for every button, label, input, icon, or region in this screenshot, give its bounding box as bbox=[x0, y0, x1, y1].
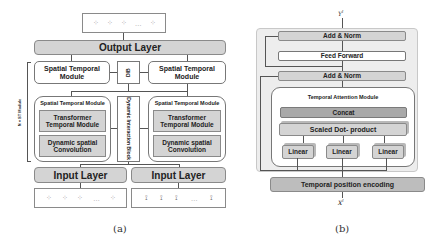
output-frame-icon: ⁘ bbox=[121, 19, 126, 27]
graph-node-icon: ⟟ bbox=[160, 194, 162, 202]
feed-forward: Feed Forward bbox=[278, 51, 406, 61]
connector bbox=[110, 72, 117, 73]
transformer-temporal-module: Transformer Temporal Module bbox=[39, 110, 106, 132]
connector bbox=[140, 72, 148, 73]
st-module-right: Spatial Temporal Module bbox=[148, 61, 226, 84]
graph-node-icon: ⟟ bbox=[175, 194, 177, 202]
input-frame-icon: ⁘ bbox=[46, 194, 51, 202]
residual-connector bbox=[260, 76, 261, 170]
temporal-position-encoding: Temporal position encoding bbox=[270, 177, 425, 192]
residual-connector bbox=[265, 36, 266, 66]
dib-small-label: DIB bbox=[126, 68, 132, 77]
connector bbox=[342, 61, 343, 71]
output-frame-icon: ⁘ bbox=[93, 19, 98, 27]
connector bbox=[303, 136, 304, 145]
st-module-left: Spatial Temporal Module bbox=[34, 61, 110, 84]
connector bbox=[343, 136, 344, 145]
connector bbox=[111, 128, 117, 129]
residual-connector bbox=[265, 66, 342, 67]
input-sequence-left: ⁘ ⁘ ⁘ … ⁘ bbox=[34, 188, 127, 208]
inner-st-module-left: Spatial Temporal Module Transformer Temp… bbox=[34, 96, 111, 162]
input-frame-icon: ⁘ bbox=[62, 194, 67, 202]
connector bbox=[128, 84, 129, 91]
output-symbol: Yl bbox=[338, 9, 343, 17]
ellipsis-icon: … bbox=[191, 195, 197, 202]
stack-bracket bbox=[27, 62, 31, 162]
connector bbox=[384, 136, 385, 145]
caption-b: (b) bbox=[335, 223, 349, 234]
connector bbox=[297, 158, 298, 170]
graph-node-icon: ⟟ bbox=[145, 194, 147, 202]
connector bbox=[386, 158, 387, 170]
residual-connector bbox=[260, 76, 278, 77]
output-frame-icon: ⁘ bbox=[107, 19, 112, 27]
input-symbol: Xl bbox=[338, 198, 344, 206]
connector bbox=[342, 41, 343, 51]
dynamic-spatial-convolution: Dynamic spatial Convolution bbox=[153, 135, 221, 157]
dynamic-spatial-convolution: Dynamic spatial Convolution bbox=[39, 135, 106, 157]
linear-box-2: Linear bbox=[326, 145, 358, 159]
connector bbox=[187, 84, 188, 96]
dynamic-interaction-block: Dynamic Interaction Block bbox=[117, 96, 140, 162]
connector bbox=[342, 158, 343, 177]
output-frame-icon: ⁘ bbox=[150, 19, 155, 27]
connector bbox=[140, 128, 148, 129]
input-sequence-right: ⟟ ⟟ ⟟ … ⟟ bbox=[131, 188, 226, 208]
connector bbox=[80, 164, 180, 165]
linear-box-3: Linear bbox=[372, 145, 404, 159]
input-frame-icon: ⁘ bbox=[77, 194, 82, 202]
output-layer: Output Layer bbox=[34, 40, 226, 55]
linear-box-1: Linear bbox=[282, 145, 314, 159]
inner-st-module-right: Spatial Temporal Module Transformer Temp… bbox=[148, 96, 226, 162]
add-norm-top: Add & Norm bbox=[278, 31, 406, 41]
dynamic-interaction-label: Dynamic Interaction Block bbox=[126, 98, 132, 161]
dib-small-box: DIB bbox=[117, 61, 140, 84]
concat-box: Concat bbox=[280, 107, 407, 118]
stack-label-wrap: N × ST Module bbox=[14, 104, 26, 120]
scaled-dot-product-box: Scaled Dot- product bbox=[279, 123, 407, 136]
output-sequence-box: ⁘ ⁘ ⁘ … ⁘ bbox=[82, 13, 166, 33]
ellipsis-icon: … bbox=[93, 195, 99, 202]
input-layer-right: Input Layer bbox=[131, 167, 226, 183]
transformer-temporal-module: Transformer Temporal Module bbox=[153, 110, 221, 132]
connector bbox=[123, 33, 124, 40]
inner-st-title: Spatial Temporal Module bbox=[35, 99, 110, 108]
inner-st-title: Spatial Temporal Module bbox=[149, 99, 225, 108]
input-frame-icon: ⁘ bbox=[110, 194, 115, 202]
temporal-attention-module: Temporal Attention Module Concat Scaled … bbox=[271, 87, 415, 167]
residual-connector bbox=[265, 36, 278, 37]
caption-a: (a) bbox=[113, 223, 127, 234]
add-norm-mid: Add & Norm bbox=[278, 71, 406, 81]
stack-label: N × ST Module bbox=[18, 98, 23, 126]
input-layer-left: Input Layer bbox=[34, 167, 127, 183]
graph-node-icon: ⟟ bbox=[210, 194, 212, 202]
connector bbox=[71, 91, 188, 92]
ellipsis-icon: … bbox=[135, 20, 141, 27]
tam-title: Temporal Attention Module bbox=[272, 93, 414, 101]
